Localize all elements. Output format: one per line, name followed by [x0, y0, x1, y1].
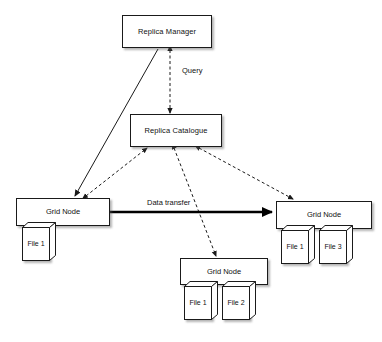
edge-label-data-transfer: Data transfer: [147, 198, 190, 207]
node-grid-node-left-label: Grid Node: [17, 207, 109, 216]
diagram-canvas: Query Data transfer Replica Manager Repl…: [0, 0, 382, 342]
file-icon-left-node-file-1[interactable]: File 1: [22, 222, 56, 262]
node-replica-manager[interactable]: Replica Manager: [122, 15, 212, 48]
file-label-left-node-file-1: File 1: [22, 240, 50, 247]
file-icon-right-node-file-3[interactable]: File 3: [319, 225, 353, 265]
node-grid-node-right-label: Grid Node: [277, 210, 371, 219]
node-replica-manager-label: Replica Manager: [138, 27, 196, 36]
file-label-right-node-file-3: File 3: [319, 243, 347, 250]
file-label-bottom-node-file-2: File 2: [222, 299, 250, 306]
edge-left-node-to-catalogue: [86, 148, 147, 196]
node-grid-node-bottom-label: Grid Node: [181, 267, 267, 276]
edge-label-query: Query: [182, 66, 202, 75]
node-replica-catalogue[interactable]: Replica Catalogue: [130, 114, 222, 147]
file-icon-bottom-node-file-1[interactable]: File 1: [184, 281, 218, 321]
file-label-right-node-file-1: File 1: [281, 243, 309, 250]
file-icon-bottom-node-file-2[interactable]: File 2: [222, 281, 256, 321]
file-icon-right-node-file-1[interactable]: File 1: [281, 225, 315, 265]
node-replica-catalogue-label: Replica Catalogue: [145, 126, 208, 135]
edge-right-node-to-catalogue: [199, 148, 293, 199]
file-label-bottom-node-file-1: File 1: [184, 299, 212, 306]
